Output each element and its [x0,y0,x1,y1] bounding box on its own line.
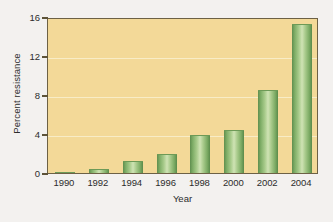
y-tick-mark [42,17,48,19]
bar[interactable] [89,169,109,173]
y-tick-mark [42,95,48,97]
plot-area [47,18,318,174]
x-tick-label: 1990 [47,177,81,188]
bar[interactable] [292,24,312,173]
x-tick-label: 2002 [250,177,284,188]
y-tick-label: 16 [18,13,40,23]
bar-slot [184,19,218,173]
bar-slot [217,19,251,173]
bar-slot [48,19,82,173]
bar-series [48,19,317,173]
bar-slot [150,19,184,173]
y-tick-mark [42,173,48,175]
bar-chart-figure: Percent resistance 0481216 1990199219941… [0,0,333,222]
bar[interactable] [258,90,278,173]
x-tick-label: 1998 [183,177,217,188]
y-tick-label: 8 [18,91,40,101]
x-tick-label: 1994 [115,177,149,188]
x-axis-label: Year [47,193,318,204]
bar-slot [285,19,318,173]
x-tick-label: 2000 [216,177,250,188]
y-tick-label: 0 [18,169,40,179]
x-tick-label: 1996 [149,177,183,188]
y-axis-tick-labels: 0481216 [14,0,40,222]
bar[interactable] [123,161,143,173]
bar-slot [116,19,150,173]
bar[interactable] [224,130,244,173]
y-tick-mark [42,56,48,58]
bar[interactable] [55,172,75,174]
y-tick-label: 4 [18,130,40,140]
bar-slot [82,19,116,173]
bar[interactable] [157,154,177,174]
bar-slot [251,19,285,173]
bar[interactable] [190,135,210,173]
x-tick-label: 2004 [284,177,318,188]
y-tick-label: 12 [18,52,40,62]
x-axis-tick-labels: 19901992199419961998200020022004 [47,177,318,191]
x-tick-label: 1992 [81,177,115,188]
y-tick-mark [42,134,48,136]
